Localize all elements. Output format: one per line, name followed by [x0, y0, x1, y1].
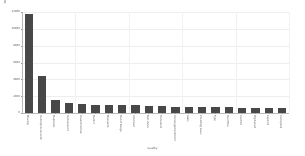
x-tick-label: Expired	[266, 115, 269, 125]
x-tick-label: Null Value	[146, 115, 149, 128]
x-tick-label: Encoding Issue	[199, 115, 202, 135]
x-tick-label: Typo	[212, 115, 215, 121]
x-tick-label: Orphaned	[252, 115, 255, 128]
x-tick-mark	[108, 113, 109, 115]
y-tick-label: 0	[18, 111, 20, 114]
x-tick-mark	[42, 113, 43, 115]
x-tick-mark	[162, 113, 163, 115]
x-tick-mark	[229, 113, 230, 115]
x-tick-label: Overflow	[226, 115, 229, 127]
y-tick-label: 8000	[13, 44, 20, 47]
x-tick-label: Truncated	[159, 115, 162, 128]
x-tick-mark	[215, 113, 216, 115]
x-tick-mark	[55, 113, 56, 115]
x-tick-label: Mismatch	[106, 115, 109, 128]
x-axis-title: quality	[0, 146, 305, 150]
x-tick-label: Stale	[186, 115, 189, 122]
bar	[51, 100, 59, 113]
x-tick-mark	[82, 113, 83, 115]
x-tick-label: Uncategorized Error	[172, 115, 175, 141]
x-tick-mark	[202, 113, 203, 115]
x-tick-mark	[242, 113, 243, 115]
x-tick-label: Corrupted	[279, 115, 282, 128]
x-tick-mark	[148, 113, 149, 115]
x-tick-label: Incomplete Record	[39, 115, 42, 139]
x-tick-label: Unknown	[132, 115, 135, 127]
bar	[25, 14, 33, 113]
x-tick-mark	[188, 113, 189, 115]
x-tick-mark	[28, 113, 29, 115]
x-tick-mark	[122, 113, 123, 115]
x-tick-label: Missing	[25, 115, 28, 125]
y-tick-label: 10000	[11, 27, 20, 30]
y-tick-label: 6000	[13, 61, 20, 64]
bar-series	[22, 12, 289, 113]
x-tick-label: Conflict	[239, 115, 242, 125]
x-tick-label: Out of Range	[119, 115, 122, 132]
x-tick-mark	[269, 113, 270, 115]
x-tick-mark	[175, 113, 176, 115]
x-tick-label: Outlier	[92, 115, 95, 124]
y-axis-tick-labels: 020004000600080001000012000	[8, 12, 21, 113]
bar-chart-figure: Total Number of Occurrences 020004000600…	[0, 0, 305, 156]
x-tick-mark	[95, 113, 96, 115]
x-tick-mark	[282, 113, 283, 115]
y-tick-label: 4000	[13, 78, 20, 81]
x-tick-mark	[135, 113, 136, 115]
x-tick-mark	[255, 113, 256, 115]
y-tick-label: 2000	[13, 95, 20, 98]
plot-area	[22, 12, 289, 113]
x-tick-label: Inconsistent	[66, 115, 69, 131]
x-tick-label: Duplicate	[52, 115, 55, 127]
x-tick-mark	[68, 113, 69, 115]
x-tick-label: Invalid Format	[79, 115, 82, 134]
bar	[38, 76, 46, 113]
y-tick-label: 12000	[11, 10, 20, 13]
